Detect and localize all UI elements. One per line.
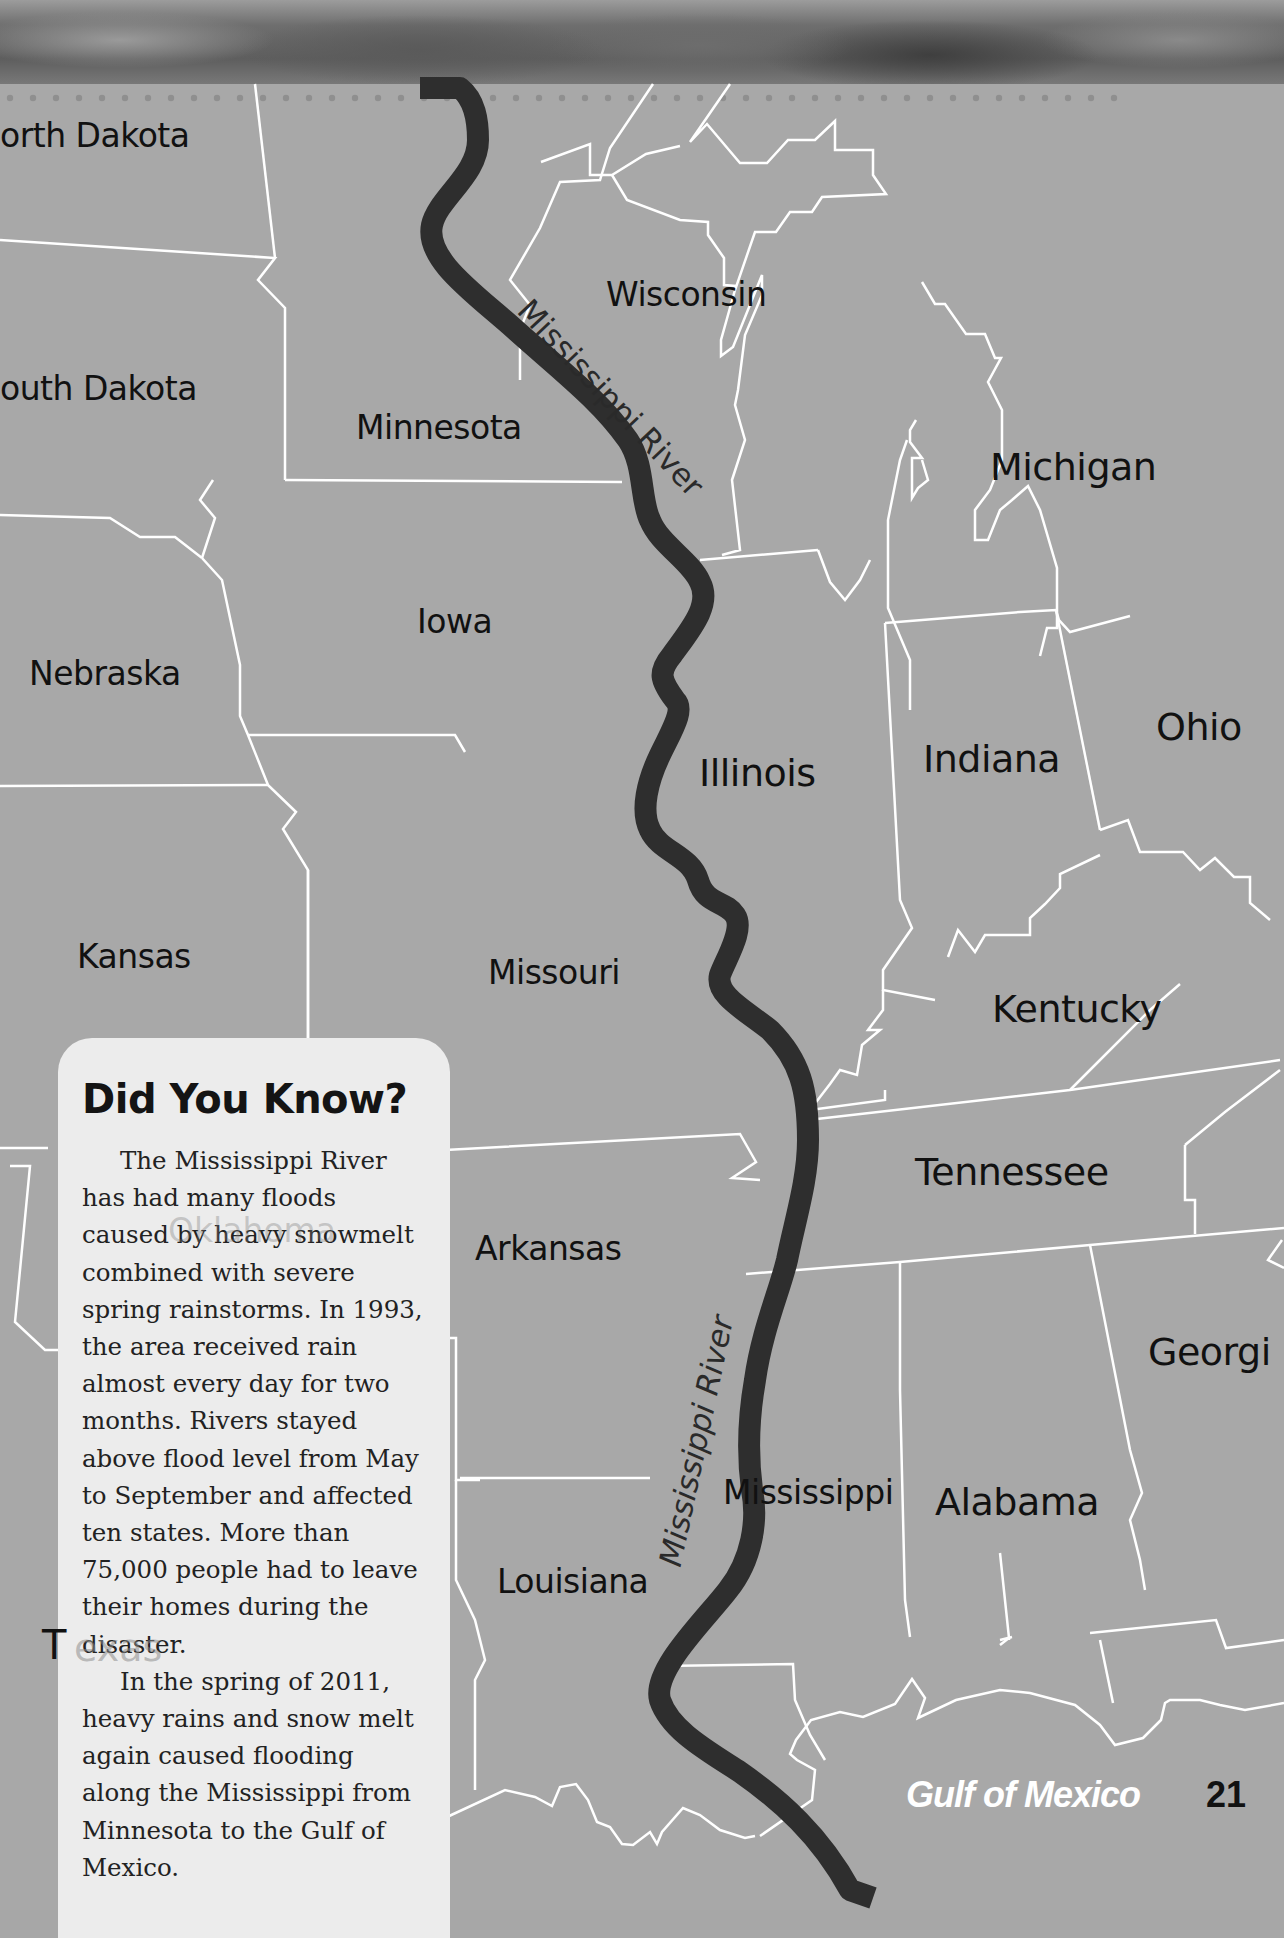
state-label-kentucky: Kentucky — [992, 987, 1162, 1031]
state-label-mississippi: Mississippi — [723, 1473, 893, 1512]
state-label-illinois: Illinois — [699, 751, 816, 795]
mississippi-river — [420, 88, 873, 1898]
state-label-wisconsin: Wisconsin — [606, 275, 766, 314]
state-label-indiana: Indiana — [923, 737, 1060, 781]
state-label-iowa: Iowa — [417, 602, 492, 641]
page-number: 21 — [1206, 1774, 1246, 1816]
state-label-nebraska: Nebraska — [29, 654, 181, 693]
state-label-north-dakota: orth Dakota — [0, 116, 190, 155]
dotted-rule — [7, 95, 1117, 101]
did-you-know-box: Oklahoma Did You Know? The Mississippi R… — [58, 1038, 450, 1938]
state-label-georgia: Georgi — [1148, 1330, 1271, 1374]
state-label-texas-faded: exas — [74, 1626, 162, 1670]
state-label-texas-initial: T — [42, 1622, 66, 1668]
state-label-michigan: Michigan — [990, 445, 1156, 489]
state-label-alabama: Alabama — [935, 1480, 1099, 1524]
state-label-south-dakota: outh Dakota — [0, 369, 197, 408]
state-label-arkansas: Arkansas — [475, 1229, 621, 1268]
state-label-missouri: Missouri — [488, 953, 620, 992]
did-you-know-title: Did You Know? — [82, 1076, 428, 1122]
state-label-kansas: Kansas — [77, 937, 191, 976]
state-label-oklahoma-faded: Oklahoma — [168, 1211, 336, 1250]
state-label-louisiana: Louisiana — [497, 1562, 648, 1601]
gulf-of-mexico-label: Gulf of Mexico — [906, 1774, 1140, 1816]
state-label-minnesota: Minnesota — [356, 408, 522, 447]
state-label-ohio: Ohio — [1156, 705, 1242, 749]
state-label-tennessee: Tennessee — [915, 1150, 1109, 1194]
did-you-know-paragraph-2: In the spring of 2011, heavy rains and s… — [82, 1663, 428, 1886]
